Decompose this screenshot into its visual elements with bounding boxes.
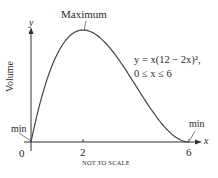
min-left-label: min (11, 124, 27, 134)
x-axis-arrow-icon (195, 140, 202, 145)
maximum-leader (84, 21, 86, 31)
y-axis-title: Volume (5, 61, 15, 92)
y-axis-label: y (29, 18, 33, 28)
equation-line-1: y = x(12 − 2x)², (134, 55, 201, 66)
maximum-label: Maximum (61, 9, 107, 20)
x-tick-label-2: 2 (80, 147, 86, 158)
equation-line-2: 0 ≤ x ≤ 6 (134, 69, 172, 80)
min-right-label: min (189, 119, 205, 129)
x-axis-label: x (204, 136, 208, 146)
x-tick-label-6: 6 (186, 147, 192, 158)
min-left-leader (19, 133, 31, 141)
volume-curve (31, 30, 189, 142)
y-axis-arrow-icon (29, 27, 34, 34)
min-right-leader (190, 131, 195, 140)
x-tick-label-0: 0 (19, 148, 25, 159)
not-to-scale-note: NOT TO SCALE (82, 160, 130, 167)
